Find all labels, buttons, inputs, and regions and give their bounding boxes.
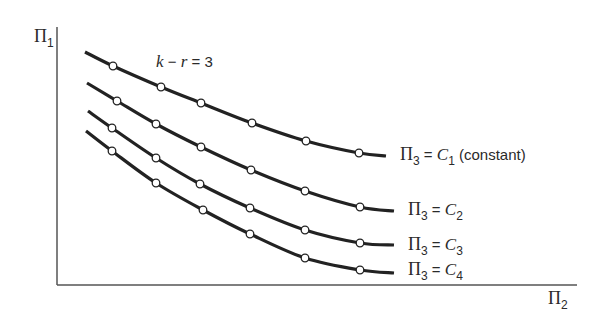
data-point-marker: [356, 266, 364, 274]
y-axis-label: Π1: [34, 26, 54, 47]
curve-c2: [87, 83, 394, 211]
data-point-marker: [301, 254, 309, 262]
data-point-marker: [108, 124, 116, 132]
curve-label-c2: Π3 = C2: [408, 199, 463, 220]
data-point-marker: [246, 230, 254, 238]
data-point-marker: [109, 62, 117, 70]
curve-c3: [88, 111, 394, 245]
data-point-marker: [301, 226, 309, 234]
k-minus-r-annotation: k − r = 3: [156, 52, 213, 72]
data-point-marker: [152, 154, 160, 162]
data-point-marker: [197, 143, 205, 151]
data-point-marker: [356, 203, 364, 211]
data-point-marker: [152, 179, 160, 187]
data-point-marker: [113, 97, 121, 105]
data-point-marker: [197, 99, 205, 107]
data-point-marker: [196, 180, 204, 188]
data-point-marker: [355, 149, 363, 157]
pi-group-plot: Π1 Π2 k − r = 3 Π3 = C1 (constant) Π3 = …: [0, 0, 595, 310]
data-point-marker: [152, 120, 160, 128]
data-point-marker: [157, 83, 165, 91]
data-point-marker: [108, 147, 116, 155]
data-point-marker: [199, 206, 207, 214]
data-point-marker: [301, 187, 309, 195]
data-point-marker: [356, 239, 364, 247]
data-point-marker: [247, 166, 255, 174]
x-axis-label: Π2: [548, 288, 568, 309]
data-point-marker: [248, 119, 256, 127]
curve-group: [85, 52, 394, 274]
data-point-marker: [246, 204, 254, 212]
curve-label-c1: Π3 = C1 (constant): [400, 144, 526, 165]
curve-label-c3: Π3 = C3: [408, 234, 463, 255]
data-point-marker: [302, 137, 310, 145]
curve-label-c4: Π3 = C4: [408, 259, 463, 280]
